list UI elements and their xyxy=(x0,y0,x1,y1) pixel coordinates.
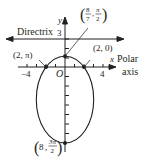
point-top-vertex xyxy=(63,54,67,58)
svg-text:,: , xyxy=(92,9,94,18)
point-left xyxy=(44,65,48,69)
svg-text:3π: 3π xyxy=(48,138,57,146)
point-right xyxy=(82,65,86,69)
y-axis-label: y xyxy=(57,15,62,25)
svg-text:): ) xyxy=(57,139,62,157)
svg-text:2: 2 xyxy=(51,147,55,155)
x-tick-neg4-label: −4 xyxy=(21,69,31,79)
svg-text:(: ( xyxy=(80,6,85,24)
directrix-label: Directrix xyxy=(17,26,53,37)
point-right-label: (2, 0) xyxy=(93,43,113,53)
point-left-label: (2, π) xyxy=(13,50,33,60)
svg-text:8: 8 xyxy=(39,142,44,152)
svg-text:π: π xyxy=(96,6,100,14)
svg-text:2: 2 xyxy=(96,15,100,23)
polar-axis-label-line2: axis xyxy=(122,66,138,77)
y-axis xyxy=(63,17,70,152)
polar-axis-label-line1: Polar xyxy=(117,53,139,64)
point-bottom-vertex xyxy=(63,141,67,145)
origin-label: O xyxy=(56,68,63,79)
svg-text:): ) xyxy=(102,6,107,24)
svg-text:7: 7 xyxy=(86,15,90,23)
y-tick-3-label: 3 xyxy=(57,28,62,38)
svg-text:,: , xyxy=(45,142,47,152)
x-axis-label: x xyxy=(109,54,114,64)
x-tick-4-label: 4 xyxy=(100,69,105,79)
point-top-label: ( 8 7 , π 2 ) xyxy=(80,6,107,24)
svg-text:8: 8 xyxy=(86,6,90,14)
point-bottom-label: ( 8 , 3π 2 ) xyxy=(34,138,62,157)
polar-ellipse-diagram: Directrix 3 y ( 8 7 , π 2 ) (2, π) (2, 0… xyxy=(0,0,148,157)
